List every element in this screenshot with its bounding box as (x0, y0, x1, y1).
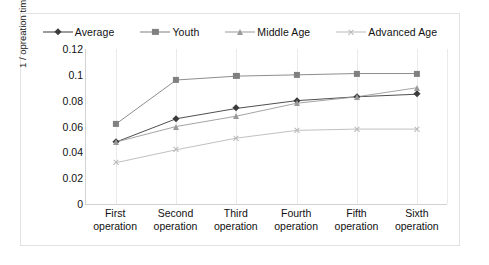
y-tick-label: 0.1 (68, 69, 83, 81)
square-marker-icon (173, 77, 179, 83)
square-marker-icon (293, 72, 299, 78)
triangle-marker-icon (237, 29, 243, 35)
square-marker-icon (113, 121, 119, 127)
diamond-marker-icon (54, 28, 62, 36)
legend-label: Youth (172, 26, 199, 38)
x-tick-line: operation (326, 220, 386, 233)
y-tick-label: 0 (77, 198, 83, 210)
x-tick-line: operation (387, 220, 447, 233)
series-line-average (116, 94, 417, 142)
x-tick-line: Sixth (387, 207, 447, 220)
cross-marker-icon (353, 126, 360, 133)
x-tick-label: Fifthoperation (326, 207, 386, 247)
legend-item-youth[interactable]: Youth (140, 26, 199, 38)
legend-swatch (140, 26, 170, 38)
x-tick-line: operation (206, 220, 266, 233)
x-tick-line: Fourth (266, 207, 326, 220)
square-marker-icon (354, 70, 360, 76)
legend-item-average[interactable]: Average (43, 26, 115, 38)
legend-label: Average (75, 26, 115, 38)
x-tick-label: Thirdoperation (206, 207, 266, 247)
triangle-marker-icon (233, 113, 239, 119)
y-tick-label: 0.06 (63, 121, 83, 133)
chart-container: AverageYouthMiddle AgeAdvanced Age 1 / o… (20, 13, 460, 246)
x-tick-line: Third (206, 207, 266, 220)
x-tick-line: operation (85, 220, 145, 233)
triangle-marker-icon (354, 94, 360, 100)
square-marker-icon (152, 29, 158, 35)
legend-item-advanced-age[interactable]: Advanced Age (336, 26, 437, 38)
y-tick-label: 0.12 (63, 43, 83, 55)
legend-swatch (43, 26, 73, 38)
x-axis-tick-labels: FirstoperationSecondoperationThirdoperat… (85, 207, 447, 247)
legend-label: Advanced Age (368, 26, 437, 38)
y-tick-label: 0.08 (63, 95, 83, 107)
triangle-marker-icon (414, 85, 420, 91)
cross-marker-icon (293, 127, 300, 134)
series-line-youth (116, 74, 417, 124)
cross-marker-icon (413, 126, 420, 133)
x-tick-line: operation (266, 220, 326, 233)
vertical-gridline (447, 49, 448, 204)
chart-legend: AverageYouthMiddle AgeAdvanced Age (21, 22, 459, 42)
y-tick-label: 0.02 (63, 172, 83, 184)
y-tick-label: 0.04 (63, 146, 83, 158)
series-line-advanced-age (116, 129, 417, 163)
y-axis-label: 1 / opreation time (sec) (17, 0, 28, 68)
series-lines (86, 49, 447, 204)
x-tick-line: Second (145, 207, 205, 220)
x-tick-label: Sixthoperation (387, 207, 447, 247)
x-tick-line: First (85, 207, 145, 220)
cross-marker-icon (348, 29, 355, 36)
triangle-marker-icon (113, 139, 119, 145)
legend-swatch (225, 26, 255, 38)
square-marker-icon (414, 70, 420, 76)
cross-marker-icon (113, 159, 120, 166)
plot-area (85, 49, 447, 205)
x-tick-label: Firstoperation (85, 207, 145, 247)
y-axis-tick-labels: 00.020.040.060.080.10.12 (43, 49, 83, 204)
x-tick-line: Fifth (326, 207, 386, 220)
cross-marker-icon (233, 135, 240, 142)
triangle-marker-icon (294, 100, 300, 106)
triangle-marker-icon (173, 124, 179, 130)
cross-marker-icon (173, 146, 180, 153)
legend-label: Middle Age (257, 26, 310, 38)
square-marker-icon (233, 73, 239, 79)
x-tick-label: Fourthoperation (266, 207, 326, 247)
x-tick-label: Secondoperation (145, 207, 205, 247)
legend-swatch (336, 26, 366, 38)
legend-item-middle-age[interactable]: Middle Age (225, 26, 310, 38)
x-tick-line: operation (145, 220, 205, 233)
